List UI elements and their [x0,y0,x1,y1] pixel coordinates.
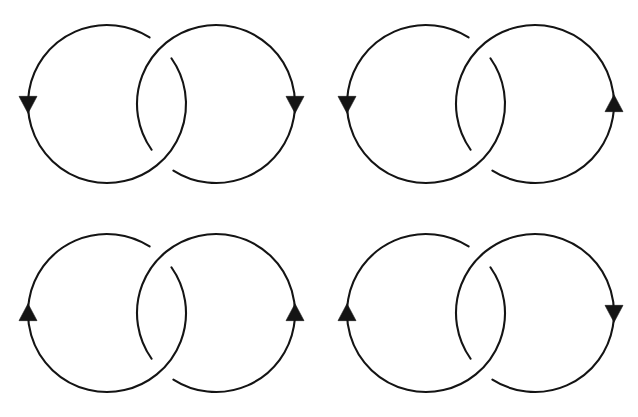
right-circle-arc [456,25,614,183]
left-circle-arc [347,234,505,392]
left-circle-arrowhead [19,304,37,321]
right-circle-arrowhead [605,95,623,112]
left-circle-arrowhead [19,96,37,113]
right-circle-arc [137,234,295,392]
right-circle-arc [137,25,295,183]
left-circle-arc [28,234,186,392]
link-panel-grid [0,0,638,417]
right-circle-arrowhead [286,96,304,113]
link-diagram-top-left [0,0,319,209]
link-diagram-top-right [319,0,638,209]
right-circle-arc [456,234,614,392]
link-panel-bottom-left [0,209,319,417]
right-circle-arrowhead [286,304,304,321]
link-panel-bottom-right [319,209,638,417]
left-circle-arrowhead [338,96,356,113]
right-circle-arrowhead [605,305,623,322]
link-diagram-bottom-left [0,209,319,417]
left-circle-arrowhead [338,304,356,321]
link-diagram-bottom-right [319,209,638,417]
link-panel-top-right [319,0,638,209]
link-panel-top-left [0,0,319,209]
left-circle-arc [28,25,186,183]
figure-root [0,0,638,417]
left-circle-arc [347,25,505,183]
